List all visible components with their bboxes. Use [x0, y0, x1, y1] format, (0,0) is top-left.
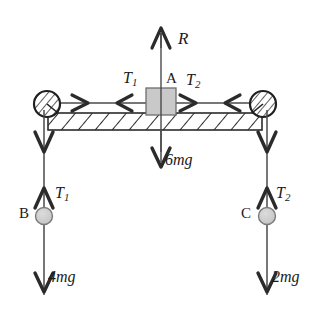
- label-tension-T1-top: T1: [123, 70, 138, 88]
- tension-T2-C-subscript: 2: [285, 191, 290, 203]
- mass-C: [259, 208, 276, 225]
- tension-T1-B-subscript: 1: [64, 191, 69, 203]
- label-normal-reaction: R: [178, 30, 188, 47]
- tension-T2-top-subscript: 2: [195, 78, 200, 90]
- pulley-left: [34, 91, 60, 117]
- label-block-A: A: [166, 71, 177, 86]
- label-weight-C: 2mg: [272, 269, 300, 285]
- label-weight-beam: 6mg: [165, 152, 193, 168]
- label-tension-T1-at-B: T1: [55, 185, 70, 203]
- tension-T2-top-symbol: T: [186, 71, 195, 88]
- label-mass-B: B: [19, 206, 29, 221]
- label-weight-B: 4mg: [48, 269, 76, 285]
- arrow-R: [152, 28, 170, 48]
- tension-T1-top-subscript: 1: [132, 76, 137, 88]
- label-tension-T2-at-C: T2: [276, 185, 291, 203]
- physics-diagram: R T1 A T2 6mg T1 B 4mg T2 C 2mg: [0, 0, 312, 312]
- diagram-canvas: [0, 0, 312, 312]
- tension-T1-top-symbol: T: [123, 69, 132, 86]
- pulley-right: [250, 91, 276, 117]
- mass-B: [36, 208, 53, 225]
- label-tension-T2-top: T2: [186, 72, 201, 90]
- tension-T2-C-symbol: T: [276, 184, 285, 201]
- tension-T1-B-symbol: T: [55, 184, 64, 201]
- label-mass-C: C: [241, 206, 251, 221]
